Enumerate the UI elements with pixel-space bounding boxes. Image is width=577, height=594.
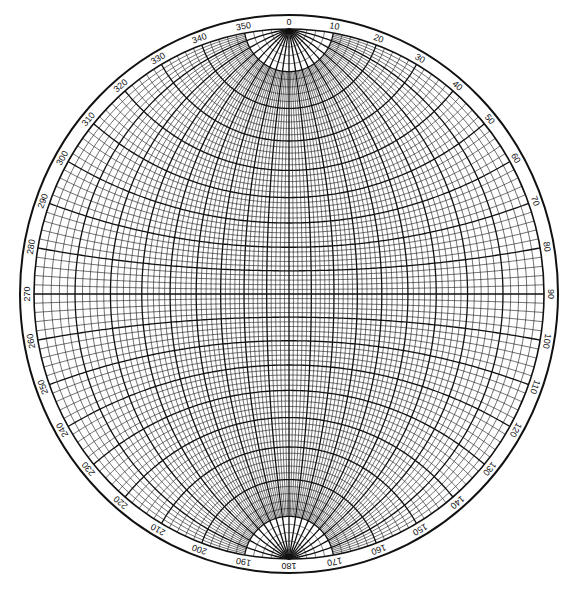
- azimuth-label: 210: [149, 521, 167, 537]
- bold-grid-lines: [34, 29, 544, 559]
- azimuth-label: 20: [372, 32, 385, 45]
- azimuth-label: 70: [529, 195, 542, 208]
- azimuth-label: 150: [411, 521, 429, 537]
- azimuth-label: 130: [481, 460, 498, 478]
- azimuth-label: 90: [546, 289, 556, 299]
- azimuth-label: 260: [25, 333, 37, 350]
- azimuth-label: 320: [112, 77, 130, 94]
- azimuth-label: 230: [80, 460, 97, 478]
- azimuth-label: 100: [541, 333, 553, 350]
- azimuth-label: 10: [329, 20, 341, 32]
- azimuth-label: 350: [235, 20, 252, 32]
- azimuth-label: 310: [80, 110, 97, 128]
- azimuth-label: 140: [448, 494, 466, 511]
- azimuth-label: 270: [22, 286, 32, 301]
- azimuth-label: 170: [326, 556, 343, 568]
- azimuth-label: 220: [112, 494, 130, 511]
- azimuth-label: 190: [235, 556, 252, 568]
- azimuth-label: 280: [25, 239, 37, 256]
- stereonet-diagram: 0102030405060708090100110120130140150160…: [0, 0, 577, 594]
- azimuth-label: 180: [281, 561, 296, 571]
- azimuth-label: 0: [286, 17, 291, 27]
- azimuth-label: 80: [541, 241, 553, 253]
- azimuth-label: 330: [149, 50, 167, 66]
